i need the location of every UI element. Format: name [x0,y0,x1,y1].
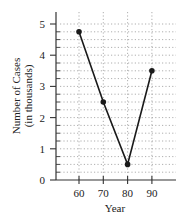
y-tick-label: 0 [40,174,46,186]
y-tick-label: 3 [40,80,46,92]
y-axis-title-group: Number of Cases (in thousands) [10,58,35,134]
data-line [79,32,152,165]
grid-lines [60,12,176,180]
x-tick-label: 60 [74,187,86,199]
axes [56,12,176,180]
y-tick-label: 5 [40,18,46,30]
x-tick-label: 80 [122,187,134,199]
y-tick-label: 1 [40,143,46,155]
line-chart: 012345 60708090 Year Number of Cases (in… [0,0,184,221]
data-point-marker [149,68,155,74]
y-axis-title: Number of Cases [10,58,22,134]
y-tick-label: 2 [40,112,46,124]
x-tick-label: 70 [98,187,110,199]
y-tick-label: 4 [40,49,46,61]
data-point-marker [125,162,131,168]
y-tick-labels: 012345 [40,18,61,186]
x-axis-title: Year [105,202,126,214]
x-tick-label: 90 [146,187,158,199]
y-axis-subtitle: (in thousands) [22,64,35,127]
data-markers [76,29,155,167]
data-point-marker [76,29,82,35]
data-point-marker [101,99,107,105]
